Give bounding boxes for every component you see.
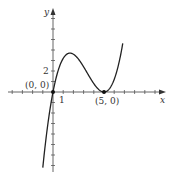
x-axis-arrow-icon — [159, 90, 166, 95]
y-tick-label-2: 2 — [43, 66, 49, 76]
point-origin — [51, 90, 55, 94]
y-axis-arrow-icon — [51, 8, 56, 15]
x-axis-label: x — [160, 95, 165, 105]
point-label-origin: (0, 0) — [25, 80, 49, 90]
y-axis-label: y — [43, 7, 50, 17]
point-label-root: (5, 0) — [95, 96, 119, 106]
chart-canvas: y x 1 2 (0, 0) (5, 0) — [0, 0, 173, 174]
x-tick-label-1: 1 — [59, 95, 65, 105]
x-axis — [8, 90, 166, 95]
point-root-5 — [102, 90, 106, 94]
